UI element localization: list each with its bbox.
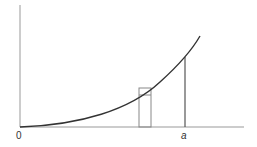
curve: [20, 36, 200, 127]
a-label: a: [181, 130, 187, 141]
origin-label: 0: [16, 130, 22, 141]
diagram-canvas: [0, 0, 257, 147]
